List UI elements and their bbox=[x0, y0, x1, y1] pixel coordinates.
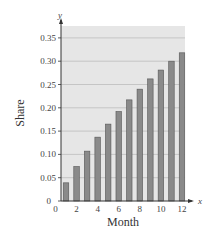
bar-chart: 00.050.100.150.200.250.300.35 024681012 … bbox=[0, 0, 209, 240]
x-tick-label: 8 bbox=[138, 204, 143, 214]
x-axis-arrow-icon bbox=[188, 199, 194, 203]
y-tick-label: 0.35 bbox=[40, 33, 56, 43]
bar-month-5 bbox=[105, 124, 111, 201]
y-axis-variable: y bbox=[57, 10, 62, 20]
x-tick-label: 2 bbox=[74, 204, 79, 214]
bar-month-4 bbox=[95, 137, 101, 201]
y-tick-label: 0.25 bbox=[40, 80, 56, 90]
x-tick-labels: 024681012 bbox=[53, 204, 186, 214]
bar-month-9 bbox=[148, 79, 154, 201]
y-axis-title: Share bbox=[13, 99, 27, 126]
x-tick-label: 6 bbox=[116, 204, 121, 214]
bar-month-1 bbox=[63, 183, 69, 201]
y-tick-label: 0 bbox=[47, 196, 52, 206]
bar-month-3 bbox=[84, 151, 90, 201]
x-axis-variable: x bbox=[197, 196, 202, 206]
bar-month-8 bbox=[137, 89, 143, 201]
y-tick-label: 0.05 bbox=[40, 173, 56, 183]
x-tick-label: 10 bbox=[156, 204, 166, 214]
x-axis-title: Month bbox=[107, 215, 139, 229]
y-tick-label: 0.30 bbox=[40, 56, 56, 66]
y-tick-labels: 00.050.100.150.200.250.300.35 bbox=[40, 33, 56, 206]
bar-month-11 bbox=[169, 61, 175, 201]
bar-month-7 bbox=[127, 100, 133, 201]
y-tick-label: 0.15 bbox=[40, 126, 56, 136]
x-tick-label: 0 bbox=[53, 204, 58, 214]
x-tick-label: 4 bbox=[95, 204, 100, 214]
bar-month-2 bbox=[74, 167, 80, 201]
x-tick-label: 12 bbox=[178, 204, 187, 214]
bar-month-12 bbox=[179, 53, 185, 201]
bar-month-6 bbox=[116, 112, 122, 201]
y-tick-label: 0.20 bbox=[40, 103, 56, 113]
bar-month-10 bbox=[158, 70, 164, 201]
y-tick-label: 0.10 bbox=[40, 149, 56, 159]
plot-area bbox=[61, 26, 185, 201]
